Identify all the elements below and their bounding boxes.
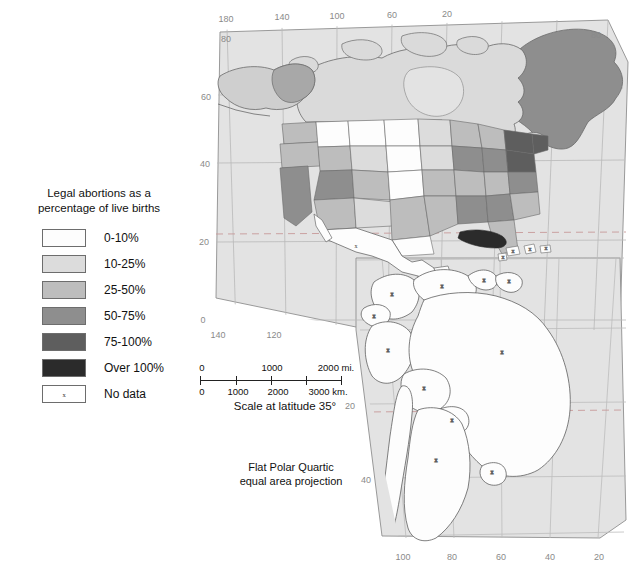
lat-label-80-left: 80 — [221, 34, 231, 44]
no-data-x-venezuela: x — [441, 283, 444, 289]
no-data-x-bolivia: x — [423, 385, 426, 391]
lon-label-top-20: 20 — [442, 9, 452, 19]
state-utah-colorado — [352, 170, 390, 200]
lon-label-top-180: 180 — [218, 14, 233, 24]
legend-label-50-75: 50-75% — [104, 309, 145, 323]
lon-label-top-100: 100 — [329, 11, 344, 21]
legend-item-10-25: 10-25% — [42, 254, 194, 273]
legend-title-line-2: percentage of live births — [14, 201, 184, 216]
legend-swatch-over-100 — [42, 359, 86, 377]
lon-label-bottom-40: 40 — [545, 552, 555, 562]
state-new-mexico — [354, 198, 394, 228]
lat-label-20: 20 — [199, 237, 209, 247]
legend-item-no-data: x No data — [42, 384, 194, 403]
no-data-x-icon: x — [43, 390, 85, 397]
state-north-dakota — [384, 119, 420, 146]
no-data-x-puerto-rico: x — [529, 246, 532, 252]
no-data-x-ecuador: x — [373, 313, 376, 319]
legend-swatch-0-10 — [42, 229, 86, 247]
longitude-labels-bottom: 100 80 60 40 20 — [395, 552, 604, 562]
legend-title: Legal abortions as a percentage of live … — [14, 186, 184, 216]
legend-title-line-1: Legal abortions as a — [14, 186, 184, 201]
state-illinois — [452, 146, 484, 172]
legend-label-0-10: 0-10% — [104, 231, 139, 245]
no-data-x-brazil: x — [501, 349, 504, 355]
legend-item-0-10: 0-10% — [42, 228, 194, 247]
state-missouri — [422, 170, 456, 196]
state-kentucky — [454, 170, 486, 196]
lat-label-south-20: 20 — [345, 401, 355, 411]
no-data-x-jamaica: x — [502, 254, 505, 260]
lon-label-bottom-20: 20 — [594, 552, 604, 562]
lon-label-top-140: 140 — [274, 12, 289, 22]
state-texas — [390, 196, 430, 240]
map-graphic[interactable]: x x x x x x x x x x — [196, 0, 633, 572]
lon-label-top-60: 60 — [387, 10, 397, 20]
state-tennessee — [484, 172, 510, 196]
no-data-x-colombia: x — [391, 291, 394, 297]
state-south-dakota — [386, 146, 422, 172]
no-data-x-guyana: x — [483, 277, 486, 283]
lat-label-0: 0 — [200, 315, 205, 325]
state-minnesota — [418, 119, 452, 146]
state-oregon — [280, 142, 320, 168]
legend-label-over-100: Over 100% — [104, 361, 164, 375]
state-nebraska-kansas — [388, 170, 424, 200]
no-data-x-suriname: x — [508, 278, 511, 284]
legend-label-no-data: No data — [104, 387, 146, 401]
legend-label-75-100: 75-100% — [104, 335, 152, 349]
lon-label-bottom-100: 100 — [395, 552, 410, 562]
legend-swatch-25-50 — [42, 281, 86, 299]
no-data-x-paraguay: x — [451, 417, 454, 423]
state-georgia — [486, 194, 514, 222]
legend-label-10-25: 10-25% — [104, 257, 145, 271]
no-data-x-antilles: x — [545, 245, 548, 251]
no-data-x-uruguay: x — [491, 469, 494, 475]
legend-swatch-50-75 — [42, 307, 86, 325]
lon-label-bottom-80: 80 — [447, 552, 457, 562]
map-legend: Legal abortions as a percentage of live … — [14, 186, 194, 410]
lat-label-40: 40 — [200, 159, 210, 169]
legend-swatch-75-100 — [42, 333, 86, 351]
longitude-labels-inner-bottom: 140 120 — [210, 330, 281, 340]
no-data-x-peru: x — [387, 347, 390, 353]
no-data-x-mexico: x — [355, 243, 358, 249]
state-mississippi-alabama — [456, 196, 488, 224]
state-wisconsin — [450, 120, 482, 148]
state-washington — [282, 122, 318, 144]
state-idaho — [316, 121, 350, 147]
legend-label-25-50: 25-50% — [104, 283, 145, 297]
map-panel[interactable]: x x x x x x x x x x — [196, 0, 633, 572]
latitude-labels-left: 60 40 20 0 — [199, 92, 211, 325]
state-montana — [348, 120, 386, 146]
no-data-x-hispaniola: x — [512, 248, 515, 254]
lat-label-south-40: 40 — [361, 475, 371, 485]
state-nevada-n — [318, 146, 352, 171]
legend-items: 0-10% 10-25% 25-50% 50-75% 75-100% Over — [42, 228, 194, 403]
no-data-x-argentina: x — [435, 457, 438, 463]
lat-label-80-right: 80 — [591, 30, 601, 40]
lat-label-60: 60 — [201, 92, 211, 102]
state-nevada — [314, 170, 354, 200]
legend-item-25-50: 25-50% — [42, 280, 194, 299]
lon-label-140: 140 — [210, 330, 225, 340]
lon-label-120: 120 — [266, 330, 281, 340]
longitude-labels-top: 180 140 100 60 20 — [218, 9, 452, 24]
legend-swatch-no-data: x — [42, 385, 86, 403]
lon-label-bottom-60: 60 — [496, 552, 506, 562]
state-virginia — [508, 172, 538, 194]
state-iowa — [420, 146, 454, 170]
legend-swatch-10-25 — [42, 255, 86, 273]
legend-item-75-100: 75-100% — [42, 332, 194, 351]
state-ohio-indiana — [482, 148, 508, 172]
legend-item-over-100: Over 100% — [42, 358, 194, 377]
state-wyoming — [350, 146, 388, 172]
legend-item-50-75: 50-75% — [42, 306, 194, 325]
